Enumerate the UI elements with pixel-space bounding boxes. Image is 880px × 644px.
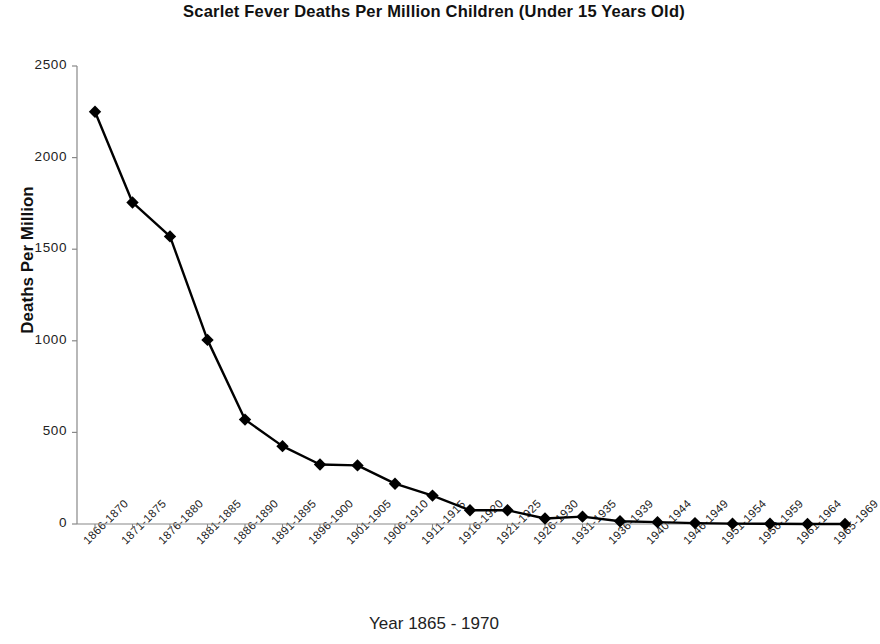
data-point-marker [576,510,588,522]
data-point-marker [764,518,776,530]
data-point-marker [314,458,326,470]
data-point-marker [614,515,626,527]
data-point-marker [464,504,476,516]
data-point-marker [689,517,701,529]
data-point-marker [351,459,363,471]
data-point-marker [201,334,213,346]
data-point-marker [539,512,551,524]
data-line [95,112,845,524]
data-point-marker [89,106,101,118]
data-point-marker [839,518,851,530]
data-point-marker [801,518,813,530]
data-point-marker [501,504,513,516]
data-point-marker [651,516,663,528]
data-point-marker [426,489,438,501]
axes [77,66,851,524]
data-point-markers [89,106,851,531]
y-axis-ticks [72,66,77,524]
data-point-marker [726,517,738,529]
data-point-marker [389,477,401,489]
